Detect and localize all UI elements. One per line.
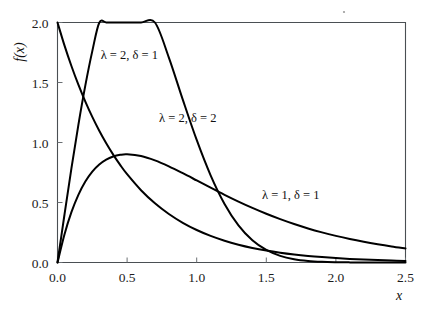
series-label-1: λ = 2, δ = 1 (101, 48, 158, 62)
x-tick-label: 1.0 (188, 270, 205, 285)
y-tick-label: 0.0 (32, 256, 49, 271)
x-axis-title: x (395, 288, 403, 303)
chart-figure: 0.00.51.01.52.02.5 0.00.51.01.52.0 λ = 2… (0, 0, 424, 309)
chart-canvas: 0.00.51.01.52.02.5 0.00.51.01.52.0 λ = 2… (0, 0, 424, 309)
y-tick-label: 0.5 (32, 196, 49, 211)
x-tick-label: 2.0 (327, 270, 344, 285)
y-tick-label: 1.5 (32, 76, 49, 91)
x-tick-label: 0.5 (119, 270, 136, 285)
series-label-2: λ = 2, δ = 2 (159, 111, 216, 125)
series-label-3: λ = 1, δ = 1 (262, 188, 319, 202)
y-tick-label: 1.0 (32, 136, 49, 151)
x-tick-label: 2.5 (397, 270, 414, 285)
y-tick-label: 2.0 (32, 16, 49, 31)
x-tick-label: 1.5 (258, 270, 275, 285)
x-tick-label: 0.0 (49, 270, 66, 285)
scan-speck (343, 11, 345, 13)
y-axis-title: f(x) (12, 42, 28, 62)
